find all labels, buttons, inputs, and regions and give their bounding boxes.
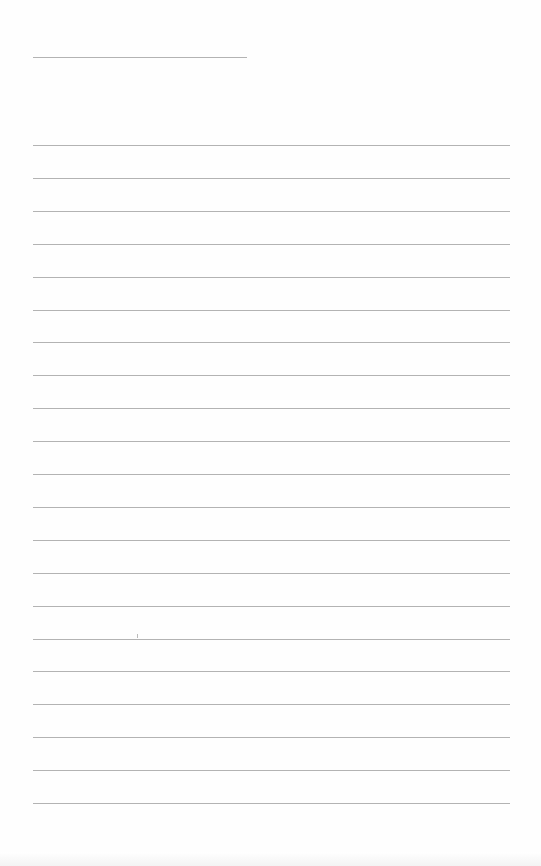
header-line xyxy=(33,57,247,58)
ruled-line xyxy=(33,770,510,771)
ruled-line xyxy=(33,342,510,343)
ruled-line xyxy=(33,540,510,541)
ruled-line xyxy=(33,244,510,245)
lined-page xyxy=(0,0,541,866)
ruled-line xyxy=(33,507,510,508)
ruled-line xyxy=(33,704,510,705)
ruled-line xyxy=(33,211,510,212)
ruled-line xyxy=(33,737,510,738)
ruled-line xyxy=(33,803,510,804)
ruled-line xyxy=(33,606,510,607)
page-edge xyxy=(0,852,541,866)
ruled-line xyxy=(33,178,510,179)
ruled-line xyxy=(33,671,510,672)
ruled-line xyxy=(33,145,510,146)
ruled-line xyxy=(33,375,510,376)
ruled-line xyxy=(33,408,510,409)
ruled-line xyxy=(33,573,510,574)
ruled-line xyxy=(33,310,510,311)
ruled-line xyxy=(33,277,510,278)
ruled-line xyxy=(33,639,510,640)
stray-mark xyxy=(137,634,138,638)
ruled-line xyxy=(33,474,510,475)
ruled-line xyxy=(33,441,510,442)
